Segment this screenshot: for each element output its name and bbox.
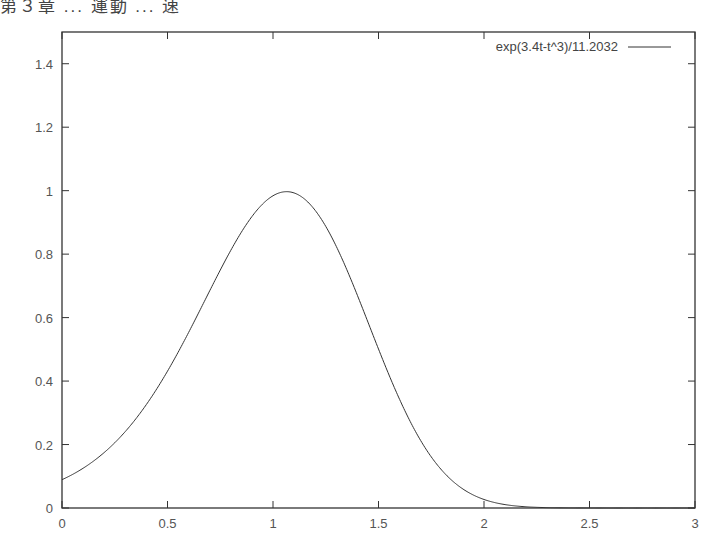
x-tick-label: 2.5 [580, 516, 598, 531]
plot-frame [62, 32, 695, 508]
y-tick-label: 1.4 [35, 57, 53, 72]
y-tick-label: 0.4 [35, 374, 53, 389]
y-axis-tick-labels: 00.20.40.60.811.21.4 [35, 57, 53, 516]
legend-label: exp(3.4t-t^3)/11.2032 [496, 39, 618, 54]
line-chart: 00.511.522.53 00.20.40.60.811.21.4 exp(3… [0, 0, 726, 555]
axis-ticks [62, 32, 695, 508]
y-tick-label: 1.2 [35, 120, 53, 135]
function-curve [62, 192, 695, 508]
y-tick-label: 0.6 [35, 311, 53, 326]
x-axis-tick-labels: 00.511.522.53 [58, 516, 698, 531]
legend: exp(3.4t-t^3)/11.2032 [496, 39, 671, 54]
plot-border [62, 32, 695, 508]
x-tick-label: 1.5 [369, 516, 387, 531]
y-tick-label: 0.2 [35, 438, 53, 453]
x-tick-label: 2 [480, 516, 487, 531]
x-tick-label: 0 [58, 516, 65, 531]
x-tick-label: 0.5 [158, 516, 176, 531]
y-tick-label: 0.8 [35, 247, 53, 262]
y-tick-label: 1 [46, 184, 53, 199]
y-tick-label: 0 [46, 501, 53, 516]
x-tick-label: 3 [691, 516, 698, 531]
x-tick-label: 1 [269, 516, 276, 531]
